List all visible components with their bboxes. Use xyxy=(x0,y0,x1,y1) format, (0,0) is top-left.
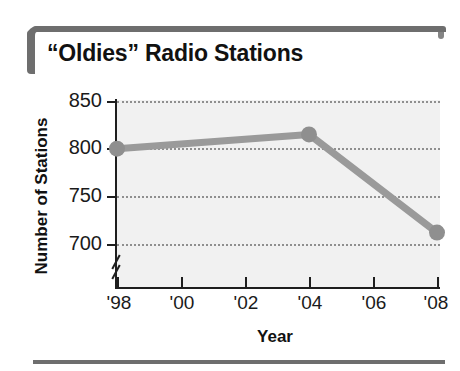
x-tick-label-06: '06 xyxy=(344,292,404,314)
y-tick-mark-800 xyxy=(107,148,117,150)
y-tick-label-750: 750 xyxy=(42,184,102,207)
x-tick-label-04: '04 xyxy=(280,292,340,314)
y-tick-label-850: 850 xyxy=(42,89,102,112)
x-tick-label-98: '98 xyxy=(89,292,149,314)
x-tick-mark-98 xyxy=(117,277,119,288)
x-tick-label-02: '02 xyxy=(216,292,276,314)
y-tick-mark-850 xyxy=(107,101,117,103)
x-tick-mark-00 xyxy=(181,277,183,288)
chart-figure: “Oldies” Radio Stations Number of Statio… xyxy=(0,0,460,371)
y-tick-label-800: 800 xyxy=(42,136,102,159)
x-tick-label-08: '08 xyxy=(406,292,460,314)
frame-bottom-rule xyxy=(33,360,445,364)
frame-top-rule xyxy=(33,26,446,32)
frame-top-right-cap xyxy=(438,30,444,39)
gridline-750 xyxy=(117,196,440,198)
x-tick-mark-06 xyxy=(373,277,375,288)
y-tick-label-700: 700 xyxy=(42,232,102,255)
frame-left-bar xyxy=(27,30,35,74)
x-tick-mark-04 xyxy=(309,277,311,288)
y-tick-mark-750 xyxy=(107,196,117,198)
plot-area xyxy=(117,100,440,288)
x-tick-label-00: '00 xyxy=(152,292,212,314)
gridline-700 xyxy=(117,244,440,246)
x-tick-mark-02 xyxy=(245,277,247,288)
gridline-850 xyxy=(117,101,440,103)
gridline-800 xyxy=(117,148,440,150)
y-axis-break-icon xyxy=(106,255,126,281)
y-tick-mark-700 xyxy=(107,244,117,246)
x-axis-line xyxy=(115,287,440,289)
x-axis-title: Year xyxy=(110,327,440,347)
x-tick-mark-08 xyxy=(437,277,439,288)
chart-title: “Oldies” Radio Stations xyxy=(47,40,303,67)
